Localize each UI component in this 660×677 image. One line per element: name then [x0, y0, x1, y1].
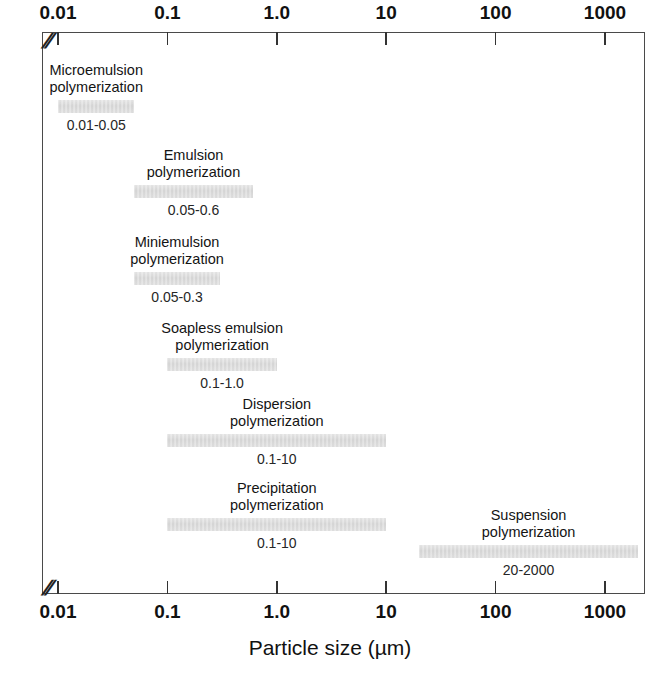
- range-bar: [419, 545, 638, 558]
- range-bar: [167, 434, 386, 447]
- method-label: Soapless emulsionpolymerization: [161, 320, 283, 354]
- bottom-axis-tick: [57, 581, 59, 594]
- top-tick-label: 0.1: [154, 2, 180, 24]
- bottom-tick-label: 1000: [584, 601, 626, 623]
- bottom-axis-tick: [604, 581, 606, 594]
- bottom-axis-tick: [385, 581, 387, 594]
- method-label-line1: Soapless emulsion: [161, 320, 283, 337]
- range-bar: [134, 185, 252, 198]
- method-label: Precipitationpolymerization: [230, 480, 324, 514]
- range-bar: [167, 518, 386, 531]
- top-axis-tick: [495, 32, 497, 45]
- range-bar: [134, 272, 219, 285]
- top-tick-label: 0.01: [40, 2, 77, 24]
- range-value-label: 20-2000: [503, 562, 554, 578]
- top-axis-tick: [604, 32, 606, 45]
- method-label: Suspensionpolymerization: [482, 507, 576, 541]
- method-label: Emulsionpolymerization: [147, 147, 241, 181]
- particle-size-chart: 0.010.11.0101001000 // // Microemulsionp…: [0, 0, 660, 677]
- top-tick-label: 10: [376, 2, 397, 24]
- bottom-axis-tick: [495, 581, 497, 594]
- method-label: Miniemulsionpolymerization: [130, 234, 224, 268]
- method-label-line1: Dispersion: [230, 396, 324, 413]
- method-label: Dispersionpolymerization: [230, 396, 324, 430]
- range-bar: [58, 100, 134, 113]
- method-label-line1: Emulsion: [147, 147, 241, 164]
- method-label-line2: polymerization: [230, 497, 324, 514]
- bottom-tick-label: 0.01: [40, 601, 77, 623]
- top-axis-tick: [385, 32, 387, 45]
- method-label: Microemulsionpolymerization: [49, 62, 143, 96]
- range-value-label: 0.05-0.6: [168, 202, 219, 218]
- bottom-tick-label: 0.1: [154, 601, 180, 623]
- range-value-label: 0.01-0.05: [67, 117, 126, 133]
- method-label-line1: Suspension: [482, 507, 576, 524]
- method-label-line1: Microemulsion: [49, 62, 143, 79]
- bottom-axis-tick: [167, 581, 169, 594]
- method-label-line2: polymerization: [130, 251, 224, 268]
- range-value-label: 0.1-10: [257, 535, 297, 551]
- top-tick-label: 1000: [584, 2, 626, 24]
- top-tick-label: 100: [480, 2, 512, 24]
- method-label-line1: Precipitation: [230, 480, 324, 497]
- top-axis-tick: [57, 32, 59, 45]
- bottom-tick-label: 10: [376, 601, 397, 623]
- method-label-line2: polymerization: [482, 524, 576, 541]
- bottom-axis-tick: [276, 581, 278, 594]
- top-axis-tick: [276, 32, 278, 45]
- method-label-line2: polymerization: [147, 164, 241, 181]
- method-label-line2: polymerization: [161, 337, 283, 354]
- method-label-line2: polymerization: [49, 79, 143, 96]
- bottom-tick-label: 1.0: [264, 601, 290, 623]
- method-label-line2: polymerization: [230, 413, 324, 430]
- range-bar: [167, 358, 276, 371]
- x-axis-title: Particle size (µm): [0, 636, 660, 660]
- range-value-label: 0.1-10: [257, 451, 297, 467]
- top-axis-tick: [167, 32, 169, 45]
- range-value-label: 0.1-1.0: [200, 375, 244, 391]
- top-tick-label: 1.0: [264, 2, 290, 24]
- method-label-line1: Miniemulsion: [130, 234, 224, 251]
- range-value-label: 0.05-0.3: [151, 289, 202, 305]
- bottom-tick-label: 100: [480, 601, 512, 623]
